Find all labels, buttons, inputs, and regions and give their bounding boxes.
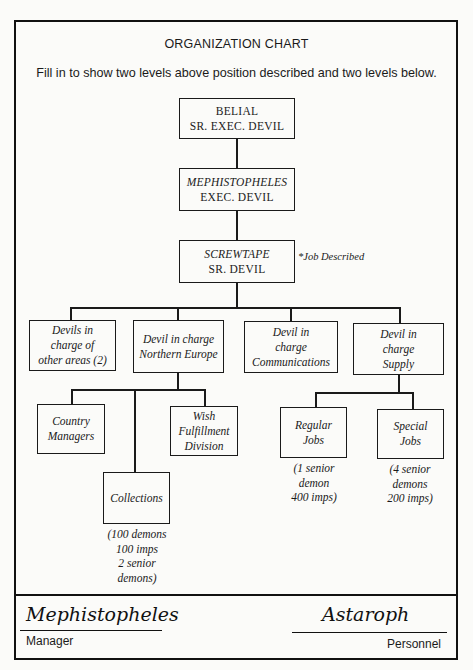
box-title: SR. DEVIL xyxy=(208,262,265,277)
box-line: Devil in charge xyxy=(143,332,214,347)
box-line: Special xyxy=(394,419,428,434)
note-line: 2 senior xyxy=(96,556,178,571)
box-other-areas: Devils in charge of other areas (2) xyxy=(29,320,116,371)
connector xyxy=(315,392,317,407)
box-line: other areas (2) xyxy=(38,353,107,368)
connector xyxy=(290,307,292,321)
box-line: Fulfillment xyxy=(178,424,229,439)
note-line: demons) xyxy=(96,571,178,586)
box-line: Division xyxy=(185,439,224,454)
special-jobs-staff-note: (4 senior demons 200 imps) xyxy=(368,462,452,506)
box-wish-fulfillment: Wish Fulfillment Division xyxy=(170,406,238,456)
box-line: Jobs xyxy=(400,434,421,449)
note-line: 200 imps) xyxy=(368,491,452,506)
box-line: charge xyxy=(383,342,415,357)
box-line: Country xyxy=(52,414,90,429)
note-line: (4 senior xyxy=(368,462,452,477)
regular-jobs-staff-note: (1 senior demon 400 imps) xyxy=(272,461,356,505)
box-communications: Devil in charge Communications xyxy=(244,321,338,373)
box-name: SCREWTAPE xyxy=(204,247,269,262)
connector xyxy=(177,307,179,320)
box-line: Northern Europe xyxy=(139,347,217,362)
box-line: Devil in xyxy=(273,325,310,340)
box-supply: Devil in charge Supply xyxy=(353,323,444,375)
job-described-note: *Job Described xyxy=(298,251,364,262)
note-line: (1 senior xyxy=(272,461,356,476)
box-line: Devils in xyxy=(52,323,93,338)
box-line: Devil in xyxy=(380,327,417,342)
box-line: Supply xyxy=(383,357,414,372)
chart-title: ORGANIZATION CHART xyxy=(0,37,473,51)
connector xyxy=(399,307,401,323)
box-regular-jobs: Regular Jobs xyxy=(280,407,347,458)
personnel-label: Personnel xyxy=(387,637,441,651)
personnel-signature: Astaroph xyxy=(322,603,409,625)
box-line: Communications xyxy=(252,355,330,370)
box-northern-europe: Devil in charge Northern Europe xyxy=(133,320,224,373)
note-line: demon xyxy=(272,476,356,491)
connector xyxy=(71,389,73,404)
connector xyxy=(236,210,238,242)
box-collections: Collections xyxy=(103,472,170,524)
box-line: Wish xyxy=(193,409,215,424)
box-name: BELIAL xyxy=(216,104,259,119)
manager-signature: Mephistopheles xyxy=(26,603,179,625)
manager-label: Manager xyxy=(26,634,73,648)
signature-divider xyxy=(14,594,458,596)
connector xyxy=(134,389,136,472)
connector xyxy=(398,374,400,392)
box-line: charge of xyxy=(51,338,94,353)
box-name: MEPHISTOPHELES xyxy=(187,175,287,190)
box-mephistopheles: MEPHISTOPHELES EXEC. DEVIL xyxy=(179,168,295,211)
box-title: SR. EXEC. DEVIL xyxy=(190,119,285,134)
connector xyxy=(236,282,238,307)
connector xyxy=(315,392,413,394)
note-line: (100 demons xyxy=(96,527,178,542)
box-special-jobs: Special Jobs xyxy=(377,409,444,459)
box-country-managers: Country Managers xyxy=(37,404,105,454)
box-line: Regular xyxy=(295,418,332,433)
collections-staff-note: (100 demons 100 imps 2 senior demons) xyxy=(96,527,178,585)
connector xyxy=(70,307,401,309)
connector xyxy=(204,389,206,406)
box-screwtape: SCREWTAPE SR. DEVIL xyxy=(179,240,295,283)
box-title: EXEC. DEVIL xyxy=(200,190,274,205)
personnel-signature-line xyxy=(292,632,447,633)
box-line: Managers xyxy=(48,429,95,444)
note-line: demons xyxy=(368,477,452,492)
box-line: Collections xyxy=(110,491,162,506)
connector xyxy=(177,372,179,389)
box-line: Jobs xyxy=(303,433,324,448)
connector xyxy=(70,307,72,320)
note-line: 100 imps xyxy=(96,542,178,557)
connector xyxy=(236,138,238,170)
connector xyxy=(71,389,205,391)
manager-signature-line xyxy=(20,630,162,631)
connector xyxy=(412,392,414,409)
note-line: 400 imps) xyxy=(272,490,356,505)
box-belial: BELIAL SR. EXEC. DEVIL xyxy=(179,98,295,139)
box-line: charge xyxy=(275,340,307,355)
instructions: Fill in to show two levels above positio… xyxy=(0,66,473,80)
